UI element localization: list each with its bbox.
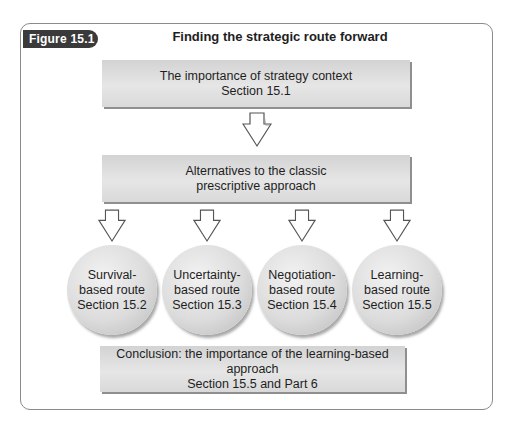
box-line: Alternatives to the classic (185, 164, 326, 179)
strategy-context-box: The importance of strategy context Secti… (102, 60, 410, 107)
route-line: based route (269, 283, 335, 298)
box-line: The importance of strategy context (160, 69, 352, 84)
route-survival: Survival- based route Section 15.2 (67, 245, 157, 335)
box-line: prescriptive approach (196, 179, 316, 194)
figure-title: Finding the strategic route forward (160, 29, 400, 44)
conclusion-box: Conclusion: the importance of the learni… (100, 346, 405, 392)
down-arrow-icon (288, 208, 316, 244)
route-line: Section 15.4 (267, 298, 337, 313)
box-line: Section 15.1 (221, 84, 291, 99)
route-line: Section 15.2 (77, 298, 147, 313)
route-line: based route (79, 283, 145, 298)
figure-label: Figure 15.1 (23, 30, 98, 48)
route-line: Learning- (371, 268, 424, 283)
route-line: Section 15.3 (172, 298, 242, 313)
down-arrow-icon (383, 208, 411, 244)
route-negotiation: Negotiation- based route Section 15.4 (257, 245, 347, 335)
route-line: Negotiation- (268, 268, 335, 283)
route-line: based route (364, 283, 430, 298)
down-arrow-icon (193, 208, 221, 244)
alternatives-box: Alternatives to the classic prescriptive… (102, 155, 410, 202)
route-line: Survival- (88, 268, 137, 283)
down-arrow-icon (242, 112, 272, 148)
down-arrow-icon (98, 208, 126, 244)
route-uncertainty: Uncertainty- based route Section 15.3 (162, 245, 252, 335)
box-line: Conclusion: the importance of the learni… (100, 347, 405, 377)
route-learning: Learning- based route Section 15.5 (352, 245, 442, 335)
route-line: Uncertainty- (173, 268, 240, 283)
box-line: Section 15.5 and Part 6 (187, 377, 318, 392)
route-line: Section 15.5 (362, 298, 432, 313)
route-line: based route (174, 283, 240, 298)
